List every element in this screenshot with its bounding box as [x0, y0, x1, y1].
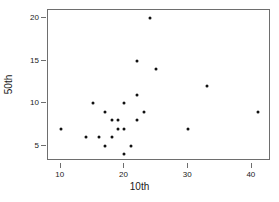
y-tick-label: 5 [21, 140, 39, 149]
x-axis-label: 10th [0, 181, 279, 192]
y-axis-label-container: 50th [2, 0, 16, 169]
data-point [104, 110, 107, 113]
data-point [97, 136, 100, 139]
x-tick-label: 40 [246, 170, 255, 179]
y-tick-label: 15 [21, 55, 39, 64]
data-point [187, 127, 190, 130]
y-tick-mark [41, 17, 46, 18]
y-tick-mark [41, 60, 46, 61]
data-point [110, 136, 113, 139]
data-point [136, 119, 139, 122]
data-point [142, 110, 145, 113]
plot-area [48, 10, 269, 159]
x-tick-mark [60, 163, 61, 168]
data-point [59, 127, 62, 130]
data-point [85, 136, 88, 139]
y-tick-mark [41, 145, 46, 146]
data-point [206, 85, 209, 88]
data-point [104, 144, 107, 147]
data-point [123, 127, 126, 130]
data-point [110, 119, 113, 122]
scatter-plot-figure: 50th 10203040 5101520 10th [0, 0, 279, 202]
x-tick-mark [251, 163, 252, 168]
x-tick-label: 20 [119, 170, 128, 179]
y-tick-mark [41, 102, 46, 103]
data-point [148, 17, 151, 20]
x-tick-mark [187, 163, 188, 168]
data-point [91, 102, 94, 105]
data-point [155, 68, 158, 71]
data-point [136, 59, 139, 62]
data-point [123, 153, 126, 156]
plot-frame [47, 9, 270, 160]
data-point [117, 127, 120, 130]
y-tick-label: 10 [21, 98, 39, 107]
data-point [257, 110, 260, 113]
data-point [136, 93, 139, 96]
x-tick-mark [123, 163, 124, 168]
data-point [123, 102, 126, 105]
y-tick-label: 20 [21, 13, 39, 22]
data-point [129, 144, 132, 147]
y-axis-label: 50th [4, 75, 15, 94]
x-tick-label: 10 [55, 170, 64, 179]
x-tick-label: 30 [183, 170, 192, 179]
data-point [117, 119, 120, 122]
